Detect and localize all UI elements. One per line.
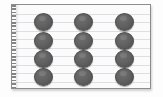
circle-counter-icon: [115, 50, 134, 68]
screenshot-canvas: Ruled notepad sheet with a grid of dark …: [0, 0, 163, 97]
counter-grid: [12, 5, 150, 88]
circle-counter-icon: [115, 32, 134, 50]
circle-counter-icon: [74, 13, 93, 31]
counter-cell: [115, 68, 134, 86]
circle-counter-icon: [115, 13, 134, 31]
counter-cell: [34, 13, 53, 31]
counter-cell: [74, 13, 93, 31]
counter-cell: [74, 50, 93, 68]
counter-cell: [115, 13, 134, 31]
circle-counter-icon: [34, 50, 53, 68]
circle-counter-icon: [34, 32, 53, 50]
counter-cell: [34, 32, 53, 50]
counter-cell: [74, 32, 93, 50]
counter-cell: [115, 32, 134, 50]
circle-counter-icon: [34, 68, 53, 86]
circle-counter-icon: [74, 32, 93, 50]
circle-counter-icon: [74, 50, 93, 68]
notepad-sheet: Ruled notepad sheet with a grid of dark …: [11, 4, 151, 89]
counter-cell: [34, 68, 53, 86]
counter-cell: [74, 68, 93, 86]
circle-counter-icon: [34, 13, 53, 31]
counter-cell: [34, 50, 53, 68]
circle-counter-icon: [74, 68, 93, 86]
counter-cell: [115, 50, 134, 68]
circle-counter-icon: [115, 68, 134, 86]
